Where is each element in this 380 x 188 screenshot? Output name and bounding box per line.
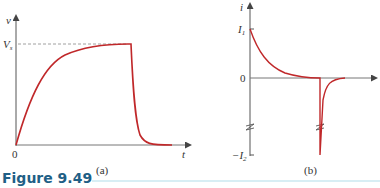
origin-label-a: 0: [12, 148, 18, 160]
caption-b: (b): [304, 164, 317, 177]
i-axis-label: i: [240, 1, 243, 13]
i2-label: −I2: [232, 149, 247, 163]
v-axis-label: v: [6, 14, 11, 26]
current-curve: [250, 29, 345, 155]
voltage-curve: [16, 44, 172, 145]
caption-a: (a): [96, 164, 109, 177]
caption-rule: [92, 180, 380, 182]
figure-label: Figure 9.49: [2, 170, 92, 186]
panel-a: v Vs 0 t (a): [3, 14, 190, 177]
t-axis-label: t: [182, 148, 186, 160]
vs-label: Vs: [3, 38, 13, 52]
axis-break-icon: [246, 124, 254, 130]
i1-label: I1: [237, 23, 245, 37]
panel-b: i I1 0 −I2 (b): [232, 1, 376, 177]
figure-canvas: v Vs 0 t (a) i I1 0 −I2 (b): [0, 0, 380, 188]
zero-label-b: 0: [240, 72, 246, 84]
